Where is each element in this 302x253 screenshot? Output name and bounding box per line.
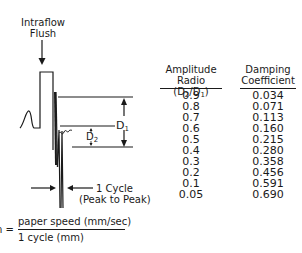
flush-label: Intraflow Flush	[20, 17, 66, 39]
d2-letter: D	[86, 131, 94, 142]
header-damping-line1: Damping	[240, 64, 296, 75]
cycle-label: 1 Cycle	[93, 183, 149, 194]
formula-numerator: paper speed (mm/sec)	[18, 216, 131, 227]
amplitude-ratio-cell: 0.05	[159, 189, 223, 200]
fraction-bar	[18, 229, 125, 230]
flush-label-line2: Flush	[20, 28, 66, 39]
cycle-label-peak: (Peak to Peak)	[79, 194, 151, 205]
formula-lhs: n =	[0, 224, 14, 235]
flush-arrow-icon	[39, 40, 46, 65]
header-damping-coefficient: Damping Coefficient	[240, 64, 296, 86]
header-amplitude-line1: Amplitude	[159, 64, 223, 75]
table-row: 0.050.690	[150, 189, 302, 200]
cycle-label-line1: 1 Cycle	[93, 183, 149, 194]
formula-denominator: 1 cycle (mm)	[18, 232, 84, 243]
d2-label: D2	[86, 131, 98, 146]
cycle-label-line2: (Peak to Peak)	[79, 194, 151, 205]
cycle-arrows	[31, 185, 93, 191]
d2-subscript: 2	[94, 136, 98, 144]
d1-subscript: 1	[124, 125, 128, 133]
d1-label: D1	[116, 120, 129, 135]
damping-coefficient-cell: 0.690	[240, 189, 296, 200]
flush-label-line1: Intraflow	[20, 17, 66, 28]
header-damping-line2: Coefficient	[240, 75, 296, 86]
